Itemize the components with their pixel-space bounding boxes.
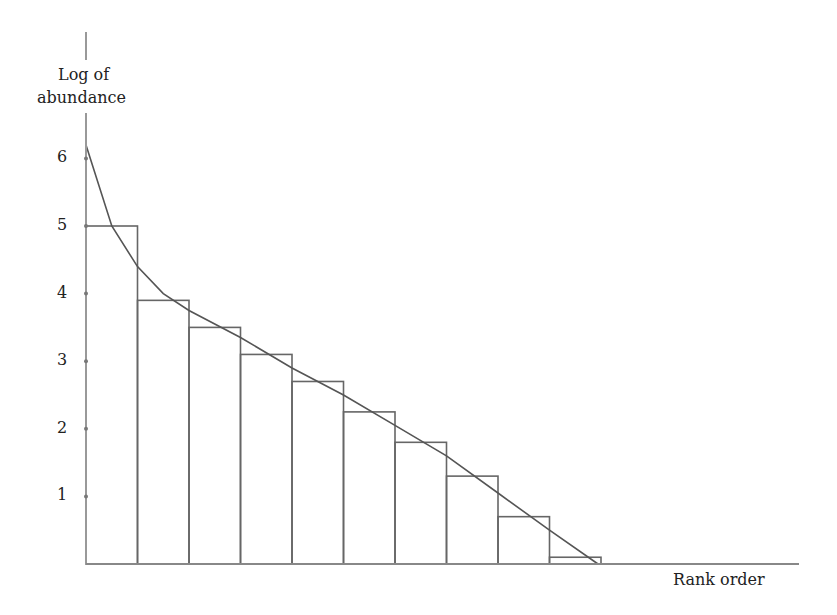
bar: [447, 476, 499, 564]
bar: [292, 381, 344, 564]
y-tick-label: 3: [57, 350, 67, 369]
y-axis-label-line2: abundance: [37, 88, 126, 107]
bar: [395, 442, 447, 564]
bar: [241, 354, 293, 564]
fitted-curve: [86, 145, 598, 564]
bar: [138, 300, 190, 564]
bar: [189, 327, 241, 564]
y-tick-label: 1: [57, 485, 67, 504]
bar: [344, 412, 396, 564]
bar: [86, 226, 138, 564]
x-axis-label: Rank order: [673, 570, 765, 589]
y-axis-label-line1: Log of: [58, 65, 109, 84]
y-tick-label: 6: [57, 147, 67, 166]
y-tick-label: 5: [57, 215, 67, 234]
y-tick-label: 2: [57, 418, 67, 437]
y-tick-label: 4: [57, 283, 67, 302]
